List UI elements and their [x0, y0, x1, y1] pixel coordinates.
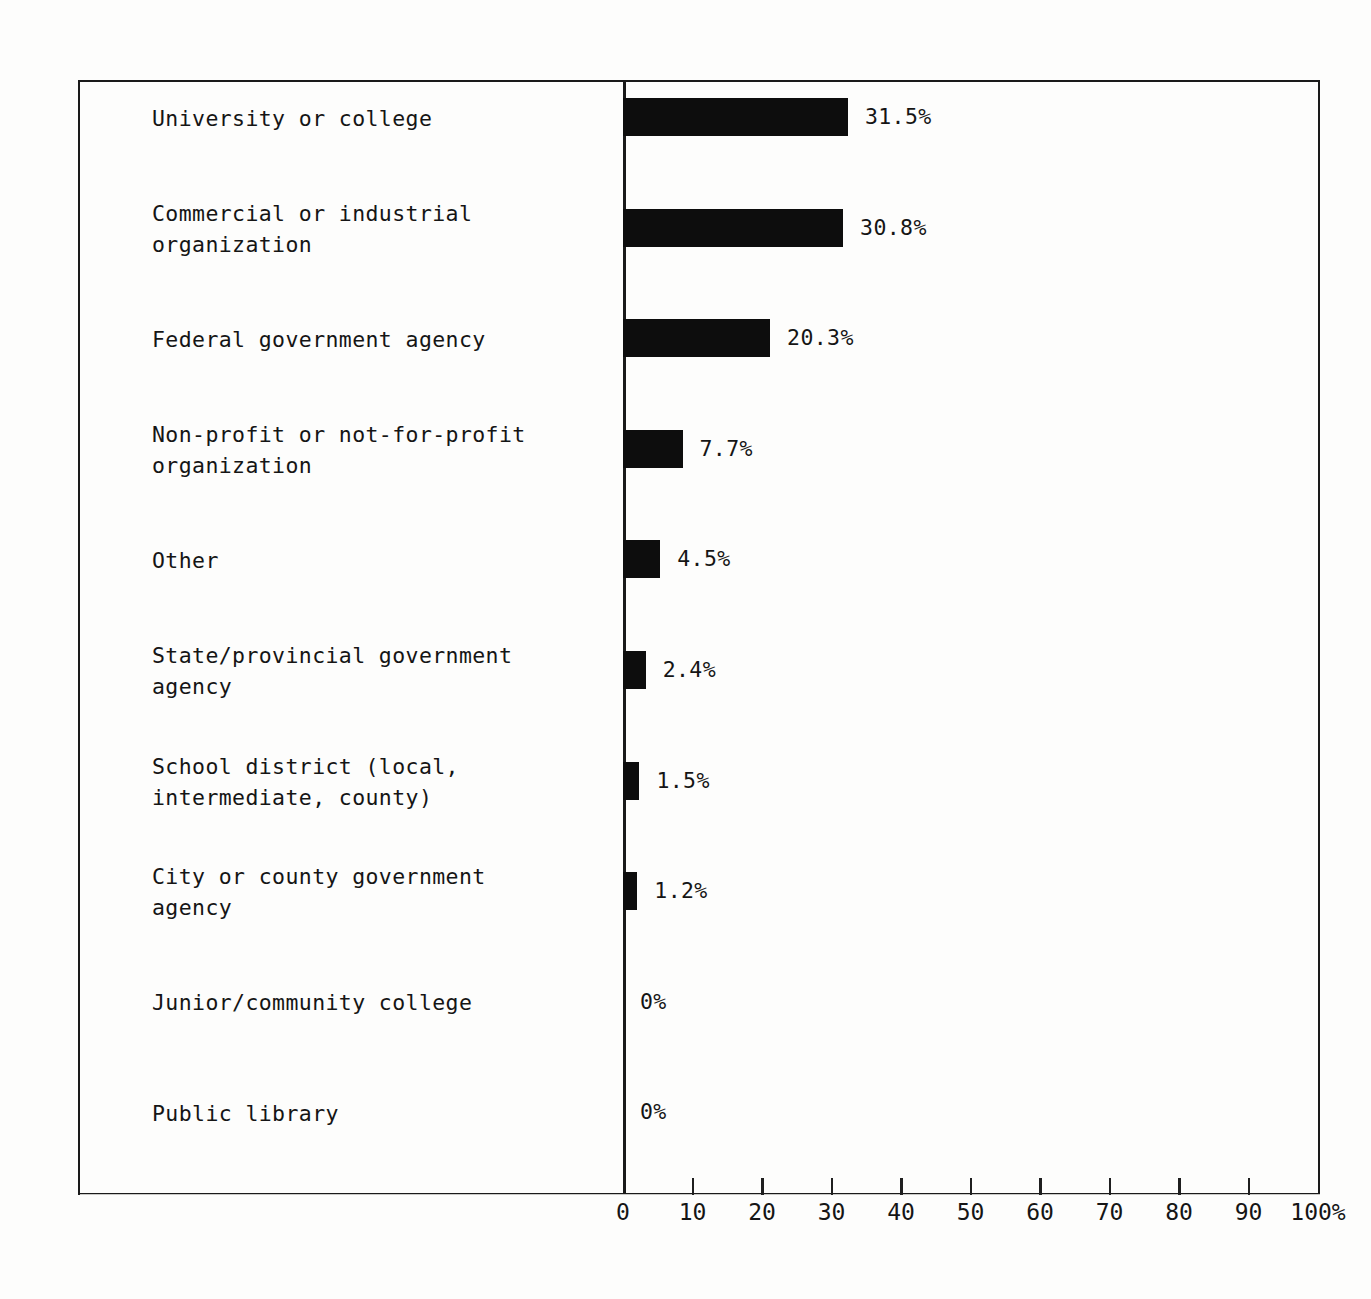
axis-tick-label: 0	[616, 1198, 630, 1226]
bar	[623, 430, 683, 468]
bar-value-label: 0%	[640, 989, 667, 1015]
bar	[623, 209, 843, 247]
category-label: University or college	[152, 103, 602, 134]
category-label: Federal government agency	[152, 324, 602, 355]
category-label: State/provincial government agency	[152, 640, 602, 702]
bar	[623, 98, 848, 136]
axis-tick-label: 50	[957, 1198, 985, 1226]
bar	[623, 762, 639, 800]
axis-tick-label: 80	[1165, 1198, 1193, 1226]
bar-value-label: 2.4%	[663, 657, 716, 683]
axis-tick-label: 60	[1026, 1198, 1054, 1226]
chart-page: University or college31.5%Commercial or …	[0, 0, 1371, 1299]
category-label: School district (local, intermediate, co…	[152, 751, 602, 813]
bar-value-label: 7.7%	[700, 436, 753, 462]
bar	[623, 319, 770, 357]
axis-tick-label: 100%	[1290, 1198, 1345, 1226]
bar-value-label: 1.5%	[656, 768, 709, 794]
bar-value-label: 4.5%	[677, 546, 730, 572]
axis-tick-label: 40	[887, 1198, 915, 1226]
bar-value-label: 30.8%	[860, 215, 927, 241]
category-label: Public library	[152, 1098, 602, 1129]
category-label: Commercial or industrial organization	[152, 198, 602, 260]
bar-value-label: 31.5%	[865, 104, 932, 130]
axis-tick-label: 20	[748, 1198, 776, 1226]
category-label: Junior/community college	[152, 987, 602, 1018]
bar-value-label: 0%	[640, 1099, 667, 1125]
category-label: Other	[152, 545, 602, 576]
bar-value-label: 1.2%	[654, 878, 707, 904]
zero-axis-line	[623, 82, 626, 1195]
bar-value-label: 20.3%	[787, 325, 854, 351]
axis-tick-label: 70	[1096, 1198, 1124, 1226]
category-label: Non-profit or not-for-profit organizatio…	[152, 419, 602, 481]
axis-tick-label: 30	[818, 1198, 846, 1226]
bar	[623, 872, 637, 910]
category-label: City or county government agency	[152, 861, 602, 923]
bar	[623, 540, 660, 578]
axis-tick-label: 10	[679, 1198, 707, 1226]
bar	[623, 651, 646, 689]
axis-tick-label: 90	[1235, 1198, 1263, 1226]
